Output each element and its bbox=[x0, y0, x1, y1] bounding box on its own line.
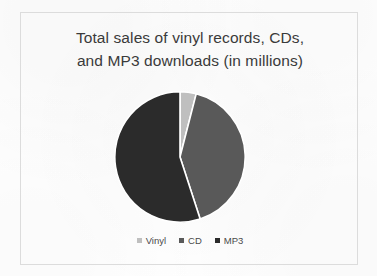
legend-entry-cd[interactable]: CD bbox=[179, 235, 202, 246]
legend-label: CD bbox=[188, 235, 202, 246]
legend-entry-vinyl[interactable]: Vinyl bbox=[137, 235, 166, 246]
legend-swatch-icon-cd bbox=[179, 238, 184, 243]
pie-chart-plot-area bbox=[114, 91, 246, 223]
legend-entry-mp3[interactable]: MP3 bbox=[215, 235, 244, 246]
chart-container: Total sales of vinyl records, CDs, and M… bbox=[20, 12, 358, 265]
pie-chart-svg bbox=[114, 91, 246, 223]
legend-label: MP3 bbox=[224, 235, 244, 246]
legend-swatch-icon-mp3 bbox=[215, 238, 220, 243]
chart-legend: VinylCDMP3 bbox=[21, 235, 359, 246]
legend-swatch-icon-vinyl bbox=[137, 238, 142, 243]
legend-label: Vinyl bbox=[146, 235, 166, 246]
pie-slice-group bbox=[115, 92, 245, 222]
chart-title: Total sales of vinyl records, CDs, and M… bbox=[21, 26, 359, 72]
